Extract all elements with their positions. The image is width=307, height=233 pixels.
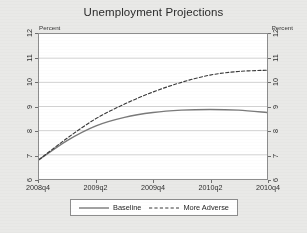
y-axis-tick-label: 6 xyxy=(26,178,33,182)
y-axis-tick-mark xyxy=(35,131,38,132)
y-axis-tick-label: 8 xyxy=(26,129,33,133)
legend-label: More Adverse xyxy=(183,204,229,211)
x-axis-tick-mark xyxy=(96,180,97,183)
y-axis-tick-mark xyxy=(268,58,271,59)
y-axis-tick-mark xyxy=(268,131,271,132)
plot-svg xyxy=(39,34,267,179)
legend-item[interactable]: More Adverse xyxy=(149,204,229,211)
y-axis-tick-label: 12 xyxy=(272,29,279,37)
y-axis-tick-mark xyxy=(268,156,271,157)
plot-area xyxy=(38,33,268,180)
y-axis-tick-mark xyxy=(268,33,271,34)
series-lines xyxy=(39,70,267,159)
y-axis-tick-label: 7 xyxy=(26,154,33,158)
y-axis-unit-label-left: Percent xyxy=(39,24,60,31)
y-axis-tick-label: 11 xyxy=(26,54,33,61)
gridlines xyxy=(39,58,267,155)
x-axis-tick-mark xyxy=(153,180,154,183)
y-axis-tick-mark xyxy=(35,58,38,59)
x-axis-tick-label: 2010q4 xyxy=(256,184,280,191)
series-line-more-adverse xyxy=(39,70,267,159)
dashed-line-icon xyxy=(149,205,179,211)
solid-line-icon xyxy=(79,205,109,211)
y-axis-tick-label: 8 xyxy=(272,129,279,133)
y-axis-tick-label: 6 xyxy=(272,178,279,182)
chart-title: Unemployment Projections xyxy=(0,6,307,18)
chart-legend: BaselineMore Adverse xyxy=(70,199,238,216)
x-axis-tick-mark xyxy=(211,180,212,183)
y-axis-tick-label: 9 xyxy=(26,105,33,109)
y-axis-tick-mark xyxy=(268,107,271,108)
legend-item[interactable]: Baseline xyxy=(79,204,141,211)
y-axis-tick-label: 10 xyxy=(272,78,279,86)
y-axis-tick-label: 10 xyxy=(26,78,33,86)
x-axis-tick-label: 2009q2 xyxy=(84,184,108,191)
series-line-baseline xyxy=(39,109,267,159)
x-axis-tick-label: 2008q4 xyxy=(26,184,50,191)
y-axis-tick-mark xyxy=(35,33,38,34)
legend-label: Baseline xyxy=(113,204,141,211)
x-axis-tick-mark xyxy=(268,180,269,183)
y-axis-tick-mark xyxy=(35,82,38,83)
y-axis-tick-label: 7 xyxy=(272,154,279,158)
x-axis-tick-mark xyxy=(38,180,39,183)
x-axis-tick-label: 2010q2 xyxy=(199,184,223,191)
y-axis-tick-mark xyxy=(35,156,38,157)
y-axis-tick-label: 11 xyxy=(272,54,279,61)
y-axis-tick-label: 9 xyxy=(272,105,279,109)
y-axis-tick-mark xyxy=(35,107,38,108)
chart-figure: Unemployment Projections Percent Percent… xyxy=(0,0,307,233)
y-axis-tick-mark xyxy=(268,82,271,83)
y-axis-tick-label: 12 xyxy=(26,29,33,37)
x-axis-tick-label: 2009q4 xyxy=(141,184,165,191)
